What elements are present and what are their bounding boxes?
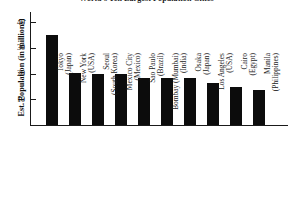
x-tick-label: Manila(Philippines) xyxy=(264,53,279,127)
x-label-country: (South Korea) xyxy=(111,53,119,127)
x-tick-label: Mexico City(Mexico) xyxy=(126,53,141,127)
x-label-country: (India) xyxy=(180,53,188,127)
y-axis-title: Est. Population (in millions) xyxy=(17,13,26,123)
bar-chart: World's Ten Largest Population Cities Es… xyxy=(0,0,293,202)
y-tick-label: 10 xyxy=(3,95,25,104)
x-tick-label: Los Angeles(USA) xyxy=(218,53,233,127)
x-label-country: (USA) xyxy=(226,53,234,127)
x-label-country: (Japan) xyxy=(203,53,211,127)
x-label-country: (Brazil) xyxy=(157,53,165,127)
x-label-country: (USA) xyxy=(88,53,96,127)
x-tick-label: Seoul(South Korea) xyxy=(103,53,118,127)
y-tick-label: 20 xyxy=(3,69,25,78)
x-tick-label: Cairo(Egypt) xyxy=(241,53,256,127)
x-tick-label: Bombay (Mumbai)(India) xyxy=(172,53,187,127)
y-tick-label: 40 xyxy=(3,18,25,27)
x-label-country: (Mexico) xyxy=(134,53,142,127)
x-label-country: (Japan) xyxy=(65,53,73,127)
x-label-country: (Philippines) xyxy=(272,53,280,127)
x-tick-label: Osaka(Japan) xyxy=(195,53,210,127)
x-axis-labels: Tokyo(Japan)New York(USA)Seoul(South Kor… xyxy=(30,127,293,202)
x-tick-label: Tokyo(Japan) xyxy=(57,53,72,127)
y-tick-label: 30 xyxy=(3,43,25,52)
x-tick-label: New York(USA) xyxy=(80,53,95,127)
chart-title: World's Ten Largest Population Cities xyxy=(0,0,293,3)
x-tick-label: Sao Paulo(Brazil) xyxy=(149,53,164,127)
x-label-country: (Egypt) xyxy=(249,53,257,127)
